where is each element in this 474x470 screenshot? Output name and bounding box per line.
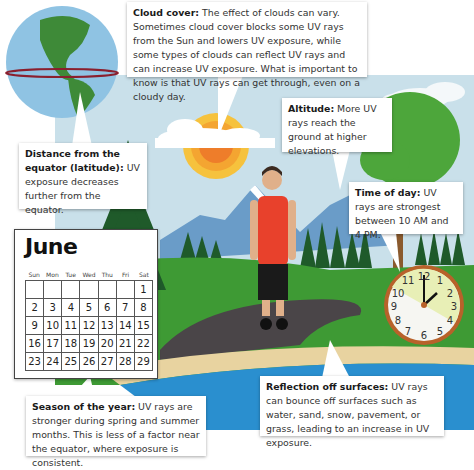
calendar-day: 24 [44,353,62,371]
calendar-day: 16 [26,335,44,353]
cloud-cover-callout: Cloud cover: The effect of clouds can va… [127,2,367,77]
calendar-day: 18 [62,335,80,353]
svg-text:3: 3 [451,301,457,312]
weekday: Wed [80,271,98,278]
calendar-day: 7 [116,299,134,317]
svg-text:1: 1 [437,275,443,286]
svg-text:10: 10 [392,288,405,299]
svg-text:2: 2 [447,288,453,299]
calendar-day: 1 [134,281,152,299]
calendar-weekdays: Sun Mon Tue Wed Thu Fri Sat [25,271,153,278]
callout-title: Cloud cover: [133,7,199,18]
calendar-day: 26 [80,353,98,371]
svg-text:6: 6 [421,330,427,341]
globe-icon [6,6,118,118]
calendar-week: 9101112131415 [26,317,153,335]
callout-text: The effect of clouds can vary. Sometimes… [133,7,360,102]
calendar-month: June [25,234,77,259]
weekday: Tue [62,271,80,278]
calendar-day: 27 [98,353,116,371]
calendar-day: 3 [44,299,62,317]
callout-title: Season of the year: [32,401,135,412]
reflection-callout: Reflection off surfaces: UV rays can bou… [260,376,444,436]
calendar-week: 23242526272829 [26,353,153,371]
calendar-day: 25 [62,353,80,371]
calendar-day: 17 [44,335,62,353]
calendar: June Sun Mon Tue Wed Thu Fri Sat 1 23456… [14,229,158,379]
svg-text:11: 11 [402,275,415,286]
calendar-day: 20 [98,335,116,353]
svg-text:9: 9 [391,301,397,312]
calendar-day: 11 [62,317,80,335]
weekday: Fri [116,271,134,278]
calendar-day [80,281,98,299]
calendar-day: 14 [116,317,134,335]
calendar-day: 21 [116,335,134,353]
calendar-day: 22 [134,335,152,353]
weekday: Mon [43,271,61,278]
calendar-day: 28 [116,353,134,371]
calendar-day: 4 [62,299,80,317]
calendar-day [26,281,44,299]
season-callout: Season of the year: UV rays are stronger… [26,396,206,456]
calendar-day: 2 [26,299,44,317]
weekday: Sun [25,271,43,278]
calendar-day: 5 [80,299,98,317]
svg-text:12: 12 [418,271,431,282]
calendar-day: 10 [44,317,62,335]
clock-icon: 1212 345 678 91011 [384,265,464,345]
calendar-day [98,281,116,299]
calendar-day: 15 [134,317,152,335]
svg-text:7: 7 [405,326,411,337]
calendar-week: 2345678 [26,299,153,317]
calendar-day: 29 [134,353,152,371]
calendar-day: 23 [26,353,44,371]
weekday: Thu [98,271,116,278]
svg-text:5: 5 [437,326,443,337]
time-of-day-callout: Time of day: UV rays are strongest betwe… [349,182,463,234]
calendar-day: 19 [80,335,98,353]
latitude-callout: Distance from the equator (latitude): UV… [19,143,147,209]
calendar-week: 16171819202122 [26,335,153,353]
svg-text:4: 4 [447,315,453,326]
callout-title: Time of day: [355,187,420,198]
calendar-day: 8 [134,299,152,317]
callout-title: Distance from the equator (latitude): [25,148,124,173]
calendar-day [44,281,62,299]
weekday: Sat [135,271,153,278]
calendar-day: 6 [98,299,116,317]
calendar-grid: 1 2345678 9101112131415 16171819202122 2… [25,280,153,371]
calendar-day: 13 [98,317,116,335]
calendar-day [116,281,134,299]
callout-title: Reflection off surfaces: [266,381,388,392]
calendar-week: 1 [26,281,153,299]
calendar-day: 9 [26,317,44,335]
calendar-day: 12 [80,317,98,335]
callout-title: Altitude: [288,103,334,114]
altitude-callout: Altitude: More UV rays reach the ground … [282,98,392,152]
calendar-day [62,281,80,299]
svg-text:8: 8 [395,315,401,326]
